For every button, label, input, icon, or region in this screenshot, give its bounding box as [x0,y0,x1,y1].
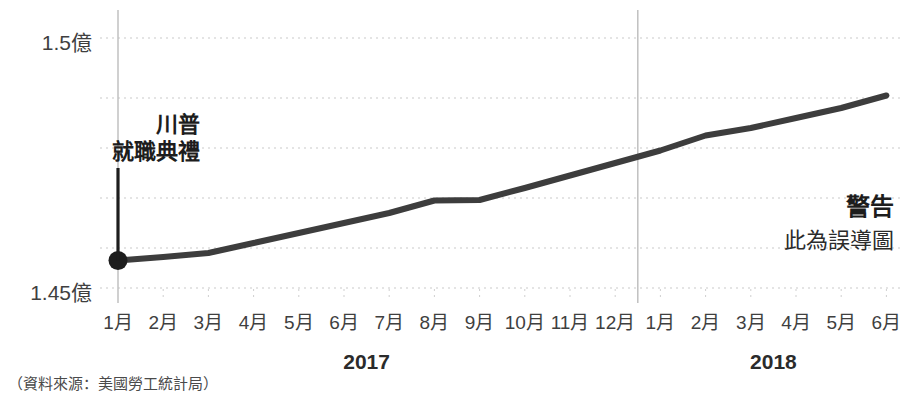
x-axis-tick-2: 2月 [148,307,178,334]
source-note: （資料來源：美國勞工統計局） [8,372,218,393]
x-axis-tick-9: 9月 [465,307,495,334]
y-axis-label-top: 1.5億 [0,26,92,56]
x-axis-tick-4: 4月 [239,307,269,334]
x-axis-tick-16: 4月 [781,307,811,334]
x-axis-tick-17: 5月 [826,307,856,334]
inauguration-annotation-line2: 就職典禮 [60,139,200,166]
misleading-warning-annotation: 警告 此為誤導圖 [654,192,894,256]
x-axis-tick-13: 1月 [646,307,676,334]
x-axis-tick-18: 6月 [872,307,902,334]
inauguration-annotation: 川普 就職典禮 [60,112,200,166]
x-axis-tick-15: 3月 [736,307,766,334]
x-axis-tick-8: 8月 [420,307,450,334]
x-axis-group-label-2017: 2017 [343,350,390,374]
x-axis-tick-11: 11月 [551,307,590,334]
x-axis-tick-3: 3月 [194,307,224,334]
x-axis-tick-1: 1月 [103,307,133,334]
x-axis-tick-14: 2月 [691,307,721,334]
inauguration-annotation-line1: 川普 [60,112,200,139]
x-axis-tick-5: 5月 [284,307,314,334]
x-axis-tick-6: 6月 [329,307,359,334]
y-axis-label-bottom: 1.45億 [0,276,92,306]
x-axis-tick-10: 10月 [505,307,545,334]
warning-title: 警告 [654,192,894,222]
warning-subtitle: 此為誤導圖 [654,226,894,256]
x-axis-tick-12: 12月 [595,307,635,334]
x-axis-tick-7: 7月 [374,307,404,334]
chart-container: 1.5億 1.45億 1月2月3月4月5月6月7月8月9月10月11月12月1月… [0,0,908,397]
x-axis-group-label-2018: 2018 [750,350,797,374]
